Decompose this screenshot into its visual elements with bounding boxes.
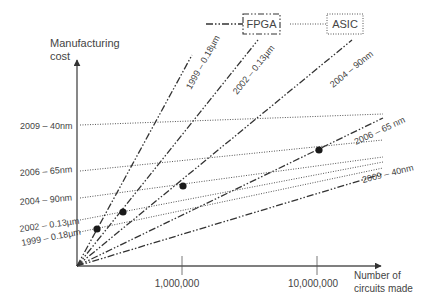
crossover-points <box>93 146 322 232</box>
legend-asic-label: ASIC <box>332 18 358 30</box>
cost-crossover-diagram: FPGA ASIC Manufacturing cost Number of c… <box>0 0 431 307</box>
fpga-label-1999: 1999 – 0.18µm <box>184 33 222 91</box>
asic-line-2009 <box>80 114 383 125</box>
y-axis-title-line2: cost <box>50 50 70 62</box>
crossover-point-2006 <box>315 146 322 153</box>
x-axis-title-line1: Number of <box>354 270 401 281</box>
asic-label-2004: 2004 – 90nm <box>19 192 72 207</box>
fpga-line-2009 <box>77 174 382 266</box>
crossover-point-2002 <box>119 208 126 215</box>
legend-fpga-label: FPGA <box>247 18 278 30</box>
fpga-label-2009: 2009 – 40nm <box>361 163 414 185</box>
asic-line-2006 <box>80 140 383 171</box>
y-axis-title-line1: Manufacturing <box>50 37 120 49</box>
crossover-point-1999 <box>93 225 100 232</box>
asic-label-2006: 2006 – 65nm <box>19 164 72 178</box>
crossover-point-2004 <box>179 182 186 189</box>
x-tick-label-10m: 10,000,000 <box>288 278 338 289</box>
fpga-line-1999 <box>77 55 192 266</box>
fpga-line-2002 <box>77 40 258 266</box>
asic-label-2009: 2009 – 40nm <box>20 121 73 131</box>
x-axis-title-line2: circuits made <box>354 283 413 294</box>
legend: FPGA ASIC <box>206 14 363 34</box>
fpga-label-2002: 2002 – 0.13µm <box>231 43 277 96</box>
fpga-label-2004: 2004 – 90nm <box>328 49 375 90</box>
x-tick-label-1m: 1,000,000 <box>155 278 200 289</box>
